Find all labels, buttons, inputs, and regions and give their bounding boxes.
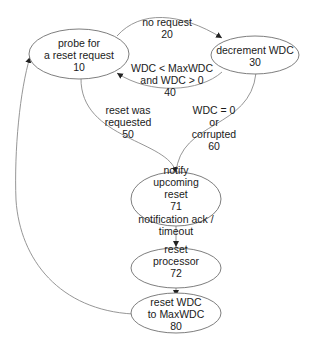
node-label: reset WDC [150, 296, 202, 308]
svg-text:requested: requested [105, 116, 152, 128]
svg-text:corrupted: corrupted [192, 128, 237, 140]
node-label: reset [164, 188, 187, 200]
node-label: 30 [249, 56, 261, 68]
node-label: a reset request [44, 49, 114, 61]
svg-text:reset was: reset was [106, 104, 151, 116]
state-reset-wdc-80: reset WDC to MaxWDC 80 [131, 293, 221, 333]
node-label: processor [153, 255, 200, 267]
edge-label-notification: notification ack / timeout [138, 213, 213, 237]
svg-text:40: 40 [164, 86, 176, 98]
node-label: decrement WDC [216, 44, 294, 56]
svg-text:notification ack /: notification ack / [138, 213, 213, 225]
node-label: 10 [73, 61, 85, 73]
svg-text:60: 60 [208, 140, 220, 152]
svg-text:and WDC > 0: and WDC > 0 [140, 74, 203, 86]
svg-text:no request: no request [142, 16, 192, 28]
node-label: upcoming [153, 176, 199, 188]
state-probe-10: probe for a reset request 10 [29, 29, 129, 79]
svg-text:timeout: timeout [159, 225, 194, 237]
state-reset-processor-72: reset processor 72 [131, 243, 221, 288]
node-label: 71 [170, 200, 182, 212]
svg-text:or: or [209, 116, 219, 128]
state-decrement-30: decrement WDC 30 [211, 36, 299, 74]
edge-label-50: reset was requested 50 [105, 104, 152, 140]
edge-label-20: no request 20 [142, 16, 192, 40]
node-label: to MaxWDC [148, 308, 205, 320]
state-diagram: probe for a reset request 10 decrement W… [0, 0, 319, 354]
node-label: 80 [170, 320, 182, 332]
edge-label-60: WDC = 0 or corrupted 60 [192, 104, 237, 152]
svg-text:WDC < MaxWDC: WDC < MaxWDC [131, 62, 213, 74]
node-label: 72 [170, 267, 182, 279]
svg-text:20: 20 [161, 28, 173, 40]
edge-label-40: WDC < MaxWDC and WDC > 0 40 [131, 62, 213, 98]
svg-text:50: 50 [122, 128, 134, 140]
edge-80-10 [16, 57, 133, 314]
node-label: notify [163, 164, 189, 176]
svg-text:WDC = 0: WDC = 0 [193, 104, 236, 116]
node-label: reset [164, 243, 187, 255]
node-label: probe for [58, 37, 101, 49]
